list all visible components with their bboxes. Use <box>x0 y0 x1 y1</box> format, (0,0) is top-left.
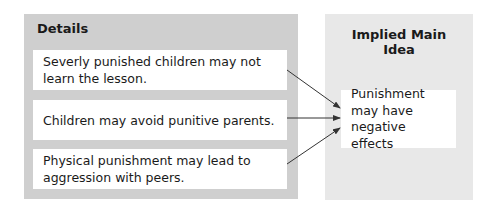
arrow-1-icon <box>287 70 340 108</box>
arrows <box>0 0 494 213</box>
arrow-3-icon <box>287 128 340 164</box>
